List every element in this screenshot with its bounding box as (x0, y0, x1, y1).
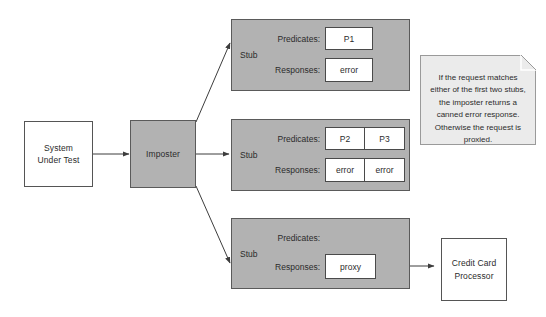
stub-name-1: Stub (240, 50, 258, 60)
system-under-test-label-line1: System (38, 142, 80, 154)
stub-3-predicates-label: Predicates: (265, 233, 320, 243)
stub-2-response-cell-2: error (364, 158, 405, 182)
stub-name-2: Stub (240, 150, 258, 160)
stub-1-predicate-cell: P1 (325, 27, 373, 50)
stub-2-predicate-cell-1: P2 (325, 127, 365, 150)
stub-2-predicates-label: Predicates: (265, 134, 320, 144)
diagram-canvas: System Under Test Imposter Stub Predicat… (0, 0, 546, 317)
stub-2-response-cell-1: error (325, 158, 365, 182)
imposter-label: Imposter (146, 148, 180, 160)
note-text: If the request matches either of the fir… (430, 73, 526, 144)
arrow-imposter-to-stub-3 (196, 186, 230, 263)
stub-3-responses-label: Responses: (265, 262, 320, 272)
node-system-under-test: System Under Test (24, 121, 93, 187)
stub-name-3: Stub (240, 249, 258, 259)
stub-2-responses-label: Responses: (265, 165, 320, 175)
stub-1-predicates-label: Predicates: (265, 34, 320, 44)
node-imposter: Imposter (130, 120, 196, 188)
note-fold-edge-icon (518, 52, 540, 74)
node-credit-card-processor: Credit Card Processor (441, 238, 507, 301)
stub-3-response-cell: proxy (325, 254, 376, 279)
arrow-imposter-to-stub-1 (196, 43, 230, 122)
credit-card-processor-label-line1: Credit Card (452, 257, 497, 269)
credit-card-processor-label-line2: Processor (452, 270, 497, 282)
stub-1-responses-label: Responses: (265, 65, 320, 75)
stub-1-response-cell: error (325, 58, 373, 82)
stub-2-predicate-cell-2: P3 (364, 127, 405, 150)
system-under-test-label-line2: Under Test (38, 154, 80, 166)
